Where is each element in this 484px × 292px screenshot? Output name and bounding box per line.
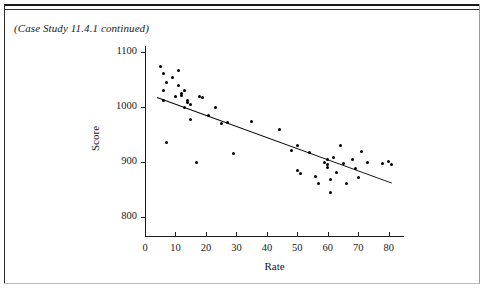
data-point [201, 96, 204, 99]
data-point [360, 150, 363, 153]
data-point [390, 163, 393, 166]
x-tick [206, 232, 207, 237]
data-point [335, 171, 338, 174]
x-tick [236, 232, 237, 237]
y-tick-label: 800 [99, 210, 137, 221]
y-axis-line [145, 46, 146, 236]
data-point [290, 149, 293, 152]
x-tick [297, 232, 298, 237]
data-point [189, 103, 192, 106]
data-point [299, 172, 302, 175]
data-point [165, 141, 168, 144]
data-point [357, 176, 360, 179]
data-point [314, 175, 317, 178]
data-point [366, 161, 369, 164]
y-tick [141, 107, 146, 108]
y-tick [141, 162, 146, 163]
data-point [351, 158, 354, 161]
data-point [174, 95, 177, 98]
data-point [296, 169, 299, 172]
y-tick-label: 1100 [99, 45, 137, 56]
data-point [159, 65, 162, 68]
data-point [345, 182, 348, 185]
data-point [214, 106, 217, 109]
x-tick [358, 232, 359, 237]
x-axis-title: Rate [105, 260, 444, 272]
regression-line [157, 97, 392, 184]
data-point [177, 69, 180, 72]
x-axis-line [145, 236, 404, 237]
x-tick [145, 232, 146, 237]
data-point [165, 81, 168, 84]
data-point [332, 156, 335, 159]
data-point [183, 89, 186, 92]
data-point [339, 144, 342, 147]
data-point [232, 152, 235, 155]
x-tick [389, 232, 390, 237]
data-point [278, 128, 281, 131]
data-point [329, 191, 332, 194]
data-point [317, 182, 320, 185]
x-tick [175, 232, 176, 237]
data-point [177, 84, 180, 87]
data-point [250, 120, 253, 123]
y-tick [141, 217, 146, 218]
data-point [381, 162, 384, 165]
data-point [220, 122, 223, 125]
data-point [189, 118, 192, 121]
x-tick-label: 80 [371, 242, 407, 253]
page: (Case Study 11.4.1 continued) 8009001000… [0, 0, 484, 292]
data-point [162, 72, 165, 75]
data-point [162, 89, 165, 92]
x-tick [267, 232, 268, 237]
y-axis-title: Score [89, 126, 101, 151]
data-point [326, 166, 329, 169]
y-tick-label: 900 [99, 155, 137, 166]
scatter-plot: 8009001000110001020304050607080RateScore [0, 0, 484, 292]
y-tick-label: 1000 [99, 100, 137, 111]
data-point [180, 94, 183, 97]
data-point [329, 178, 332, 181]
data-point [387, 160, 390, 163]
y-tick [141, 52, 146, 53]
x-tick [328, 232, 329, 237]
data-point [171, 76, 174, 79]
data-point [195, 161, 198, 164]
